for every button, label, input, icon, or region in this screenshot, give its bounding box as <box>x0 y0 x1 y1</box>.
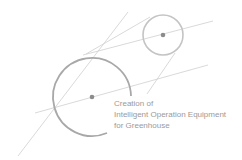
gear-diagram-graphic <box>0 0 242 160</box>
large-center-dot <box>90 95 95 100</box>
diagonal-line <box>18 12 128 156</box>
small-axis-line <box>83 21 213 55</box>
caption-line-2: Intelligent Operation Equipment <box>114 109 226 120</box>
upper-tangent-line <box>86 17 150 54</box>
small-center-dot <box>161 33 166 38</box>
caption-line-3: for Greenhouse <box>114 120 226 131</box>
lower-tangent-line <box>147 53 175 94</box>
caption-line-1: Creation of <box>114 98 226 109</box>
logo-caption: Creation of Intelligent Operation Equipm… <box>114 98 226 131</box>
